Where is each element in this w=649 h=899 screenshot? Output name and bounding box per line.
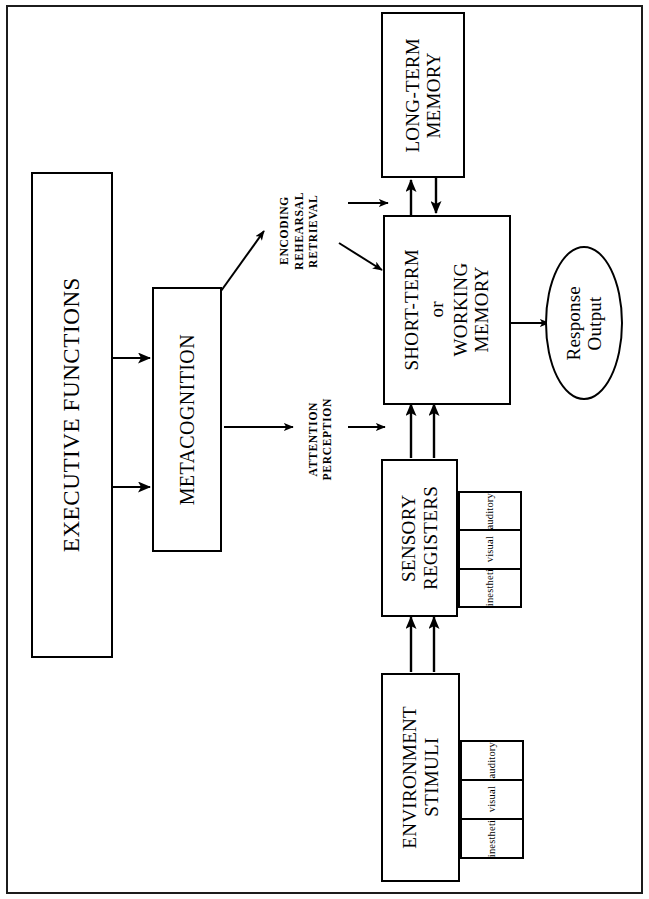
node-long-term-memory-line2: MEMORY — [423, 38, 444, 153]
label-perception: PERCEPTION — [320, 398, 334, 480]
node-environment-stimuli[interactable]: ENVIRONMENT STIMULI — [381, 673, 460, 882]
node-response-output-line1: Response — [563, 286, 584, 360]
node-short-term-line4: MEMORY — [471, 249, 492, 371]
sensory-modality-cell: visual — [460, 531, 520, 569]
label-attention-perception: ATTENTION PERCEPTION — [300, 398, 340, 508]
label-rehearsal: REHEARSAL — [292, 192, 306, 270]
sensory-modality-auditory: auditory — [484, 493, 496, 529]
edge-meta-to-encoding — [221, 231, 264, 291]
node-metacognition-label: METACOGNITION — [176, 334, 198, 505]
node-long-term-memory[interactable]: LONG-TERM MEMORY — [381, 12, 465, 178]
node-metacognition[interactable]: METACOGNITION — [152, 287, 222, 552]
sensory-modality-cell: kinesthetic — [460, 570, 520, 606]
node-short-term-line3: WORKING — [450, 249, 471, 371]
edge-encoding-to-stm — [339, 243, 382, 270]
node-environment-stimuli-line2: STIMULI — [421, 706, 442, 849]
sensory-registers-modalities: auditory visual kinesthetic — [458, 491, 522, 608]
node-environment-stimuli-line1: ENVIRONMENT — [399, 706, 420, 849]
sensory-modality-cell: auditory — [460, 493, 520, 531]
environment-modality-kinesthetic: kinesthetic — [486, 820, 498, 857]
node-long-term-memory-line1: LONG-TERM — [402, 38, 423, 153]
node-response-output-line2: Output — [584, 286, 605, 360]
node-sensory-registers-line2: REGISTERS — [420, 486, 441, 590]
node-executive-functions-label: EXECUTIVE FUNCTIONS — [59, 277, 85, 552]
node-executive-functions[interactable]: EXECUTIVE FUNCTIONS — [31, 172, 113, 658]
label-attention: ATTENTION — [306, 398, 320, 480]
label-encoding-rehearsal-retrieval: ENCODING REHEARSAL RETRIEVAL — [272, 192, 326, 302]
environment-modality-auditory: auditory — [486, 742, 498, 779]
node-short-term-working-memory[interactable]: SHORT-TERM or WORKING MEMORY — [383, 215, 511, 405]
node-sensory-registers[interactable]: SENSORY REGISTERS — [381, 459, 458, 617]
environment-stimuli-modalities: auditory visual kinesthetic — [460, 740, 524, 859]
diagram-page: EXECUTIVE FUNCTIONS METACOGNITION ENCODI… — [0, 0, 649, 899]
environment-modality-cell: kinesthetic — [462, 820, 522, 857]
sensory-modality-kinesthetic: kinesthetic — [484, 570, 496, 606]
node-sensory-registers-line1: SENSORY — [398, 486, 419, 590]
node-short-term-line1: SHORT-TERM — [401, 249, 422, 371]
label-retrieval: RETRIEVAL — [306, 192, 320, 270]
sensory-modality-visual: visual — [484, 536, 496, 562]
node-response-output[interactable]: Response Output — [545, 246, 623, 400]
environment-modality-visual: visual — [486, 786, 498, 812]
node-short-term-line2: or — [426, 249, 447, 371]
environment-modality-cell: auditory — [462, 742, 522, 781]
environment-modality-cell: visual — [462, 781, 522, 820]
label-encoding: ENCODING — [277, 192, 291, 270]
